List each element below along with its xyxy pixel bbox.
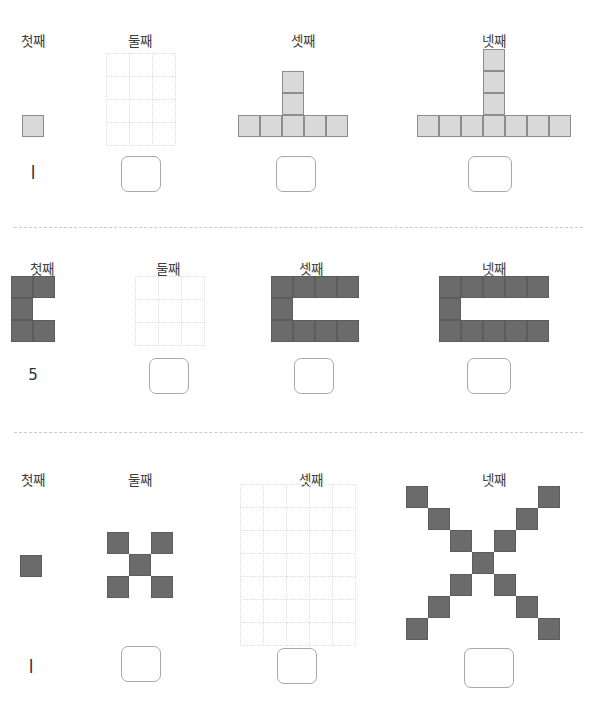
shape-cell <box>439 298 461 320</box>
grid-cell[interactable] <box>287 508 310 531</box>
shape-cell <box>483 49 505 71</box>
answer-box-s1-fourth[interactable] <box>468 156 512 192</box>
answer-box-s2-fourth[interactable] <box>467 358 511 394</box>
grid-cell[interactable] <box>107 77 130 100</box>
shape-cell <box>260 115 282 137</box>
grid-cell[interactable] <box>153 77 176 100</box>
grid-cell[interactable] <box>264 485 287 508</box>
grid-cell[interactable] <box>159 277 182 300</box>
shape-cell <box>304 115 326 137</box>
grid-cell[interactable] <box>287 554 310 577</box>
grid-cell[interactable] <box>287 600 310 623</box>
shape-cell <box>315 276 337 298</box>
grid-cell[interactable] <box>136 277 159 300</box>
grid-cell[interactable] <box>130 123 153 146</box>
grid-cell[interactable] <box>153 100 176 123</box>
grid-cell[interactable] <box>241 577 264 600</box>
grid-cell[interactable] <box>241 600 264 623</box>
figure-s1-third <box>238 71 348 137</box>
grid-cell[interactable] <box>333 554 356 577</box>
grid-cell[interactable] <box>159 323 182 346</box>
blank-grid-s2-second[interactable] <box>135 276 204 345</box>
shape-cell <box>417 115 439 137</box>
shape-cell <box>439 115 461 137</box>
pattern-section-1: 첫째 둘째 셋째 넷째 l <box>0 0 597 222</box>
grid-cell[interactable] <box>287 531 310 554</box>
grid-cell[interactable] <box>153 54 176 77</box>
grid-cell[interactable] <box>241 623 264 646</box>
grid-cell[interactable] <box>130 54 153 77</box>
grid-cell[interactable] <box>241 554 264 577</box>
answer-box-s3-third[interactable] <box>277 648 317 684</box>
grid-cell[interactable] <box>107 100 130 123</box>
grid-cell[interactable] <box>153 123 176 146</box>
grid-cell[interactable] <box>241 485 264 508</box>
grid-cell[interactable] <box>241 508 264 531</box>
shape-cell <box>494 530 516 552</box>
grid-cell[interactable] <box>264 531 287 554</box>
grid-cell[interactable] <box>264 508 287 531</box>
answer-box-s3-second[interactable] <box>121 646 161 682</box>
grid-cell[interactable] <box>264 600 287 623</box>
grid-cell[interactable] <box>287 577 310 600</box>
shape-cell <box>483 320 505 342</box>
shape-cell <box>22 115 44 137</box>
shape-cell <box>472 552 494 574</box>
answer-box-s3-fourth[interactable] <box>464 648 514 688</box>
pattern-section-3: 첫째 둘째 셋째 넷째 l <box>0 445 597 709</box>
grid-cell[interactable] <box>310 577 333 600</box>
grid-cell[interactable] <box>264 554 287 577</box>
grid-cell[interactable] <box>333 577 356 600</box>
grid-cell[interactable] <box>264 623 287 646</box>
grid-cell[interactable] <box>182 277 205 300</box>
grid-cell[interactable] <box>107 123 130 146</box>
grid-cell[interactable] <box>333 485 356 508</box>
shape-cell <box>293 276 315 298</box>
grid-cell[interactable] <box>310 485 333 508</box>
shape-cell <box>107 576 129 598</box>
figure-s1-fourth <box>417 49 571 137</box>
shape-cell <box>483 276 505 298</box>
grid-cell[interactable] <box>333 600 356 623</box>
answer-box-s1-second[interactable] <box>121 156 161 192</box>
grid-cell[interactable] <box>310 531 333 554</box>
grid-cell[interactable] <box>264 577 287 600</box>
grid-cell[interactable] <box>310 508 333 531</box>
grid-cell[interactable] <box>159 300 182 323</box>
grid-cell[interactable] <box>310 623 333 646</box>
grid-cell[interactable] <box>287 623 310 646</box>
shape-cell <box>549 115 571 137</box>
shape-cell <box>315 320 337 342</box>
count-s2-first: 5 <box>28 366 38 384</box>
shape-cell <box>326 115 348 137</box>
answer-box-s2-third[interactable] <box>294 358 334 394</box>
grid-cell[interactable] <box>333 531 356 554</box>
grid-cell[interactable] <box>136 323 159 346</box>
grid-cell[interactable] <box>182 323 205 346</box>
figure-s3-first <box>20 555 42 577</box>
blank-grid-s1-second[interactable] <box>106 53 175 145</box>
grid-cell[interactable] <box>136 300 159 323</box>
grid-cell[interactable] <box>333 508 356 531</box>
shape-cell <box>337 320 359 342</box>
answer-box-s2-second[interactable] <box>149 358 189 394</box>
grid-cell[interactable] <box>333 623 356 646</box>
grid-cell[interactable] <box>130 100 153 123</box>
blank-grid-s3-third[interactable] <box>240 484 355 645</box>
grid-cell[interactable] <box>287 485 310 508</box>
shape-cell <box>505 276 527 298</box>
answer-box-s1-third[interactable] <box>276 156 316 192</box>
grid-cell[interactable] <box>130 77 153 100</box>
shape-cell <box>439 320 461 342</box>
grid-cell[interactable] <box>310 600 333 623</box>
worksheet-page: 첫째 둘째 셋째 넷째 l <box>0 0 597 709</box>
figure-s2-third <box>271 276 359 342</box>
grid-cell[interactable] <box>107 54 130 77</box>
grid-cell[interactable] <box>182 300 205 323</box>
grid-cell[interactable] <box>310 554 333 577</box>
shape-cell <box>282 93 304 115</box>
column-label-third: 셋째 <box>299 258 323 278</box>
grid-cell[interactable] <box>241 531 264 554</box>
section-divider-1 <box>14 227 583 228</box>
figure-s3-fourth <box>406 486 560 640</box>
